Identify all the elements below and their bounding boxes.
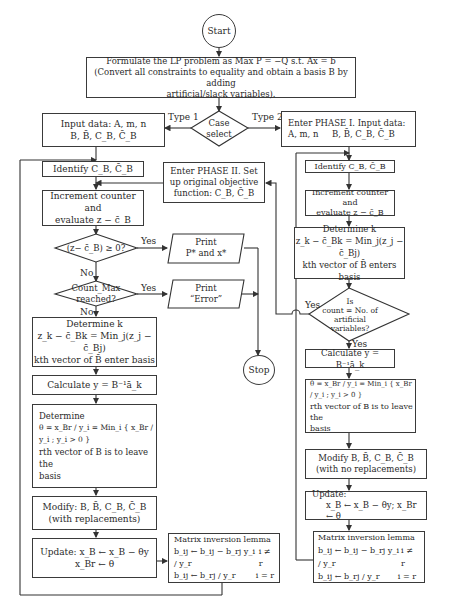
yes-label-1: Yes (141, 236, 156, 246)
formulate-line1: Formulate the LP problem as Max P = −Q s… (87, 56, 355, 67)
right-identify-box: Identify C_B, C̄_B (305, 160, 395, 173)
formulate-line2: (Convert all constraints to equality and… (87, 67, 355, 89)
right-calculate-box: Calculate y = B⁻¹ā_k (305, 349, 395, 368)
no-label-2: No (80, 307, 93, 317)
right-input-box: Enter PHASE I. Input data: A, m, n B, B̄… (281, 111, 416, 147)
right-theta-box: θ = x_Br / y_i = Min_i { x_Br / y_i ; y_… (305, 379, 416, 433)
left-input-box: Input data: A, m, n B, B̄, C_B, C̄_B (42, 113, 165, 147)
formulate-line3: artificial/slack variables). (87, 89, 355, 100)
left-calculate-box: Calculate y = B⁻¹ā_k (32, 375, 157, 395)
right-determine-k-box: Determine k z_k − c̄_Bk = Min_j(z_j − c̄… (294, 227, 405, 279)
start-label: Start (207, 26, 230, 36)
case-select-text: Case select (196, 118, 242, 140)
print-result-text: Print P* and x* (175, 237, 237, 259)
right-update-box: Update: x_B ← x_B − θy; x_Br ← θ (305, 491, 427, 520)
yes-label-2: Yes (141, 283, 156, 293)
type1-label: Type 1 (168, 112, 199, 122)
left-lemma-box: Matrix inversion lemma b_ij ← b_ij − b_r… (168, 533, 280, 583)
phase2-box: Enter PHASE II. Set up original objectiv… (163, 162, 265, 203)
print-error-text: Print “Error” (175, 283, 237, 305)
left-increment-box: Increment counter and evaluate z − c̄_B (42, 190, 144, 226)
right-decision-text: Is count = No. of artificial variables? (315, 297, 385, 333)
start-terminal: Start (202, 14, 236, 48)
stop-terminal: Stop (243, 355, 275, 385)
type2-label: Type 2 (252, 112, 283, 122)
left-identify-box: Identify C_B, C̄_B (42, 161, 144, 177)
right-increment-box: Increment counter and evaluate z − c̄_B (305, 190, 395, 216)
decision-zc-text: (z− c̄_B) ≥ 0? (62, 243, 130, 254)
no-label-1: No (80, 268, 93, 278)
right-lemma-box: Matrix inversion lemma b_ij ← b_ij − b_r… (313, 531, 425, 583)
left-update-box: Update: x_B ← x_B − θy x_Br ← θ (32, 538, 157, 578)
left-modify-box: Modify: B, B̄, C_B, C̄_B (with replaceme… (32, 496, 157, 530)
right-modify-box: Modify B, B̄, C_B, C̄_B (with no replace… (305, 449, 427, 479)
left-determine-k-box: Determine k z_k − c̄_Bk = Min_j(z_j − c̄… (32, 317, 157, 367)
left-determine-theta-box: Determine θ = x_Br / y_i = Min_i { x_Br … (32, 404, 157, 488)
decision-countmax-text: Count_Max reached? (62, 283, 130, 305)
right-yes-left-label: Yes (305, 300, 320, 310)
formulate-box: Formulate the LP problem as Max P = −Q s… (86, 57, 356, 98)
